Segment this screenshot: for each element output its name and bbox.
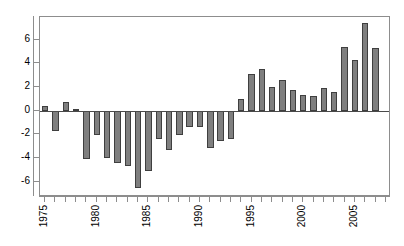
y-axis-tick-label: -2 <box>21 128 30 138</box>
x-axis-tick <box>106 197 107 202</box>
y-axis-tick-label: 0 <box>24 105 30 115</box>
x-axis-tick-label: 1985 <box>142 205 152 227</box>
x-axis-tick <box>116 197 117 202</box>
bar <box>310 96 316 111</box>
bar <box>94 111 100 136</box>
bar <box>217 111 223 142</box>
x-axis-tick <box>137 197 138 202</box>
x-axis-tick <box>354 197 355 202</box>
x-axis-tick-label: 1980 <box>91 205 101 227</box>
x-axis-tick <box>375 197 376 202</box>
x-axis-tick <box>261 197 262 202</box>
bar <box>135 111 141 188</box>
x-axis-tick-label: 2000 <box>297 205 307 227</box>
y-axis-tick-label: 6 <box>24 34 30 44</box>
plot-area <box>39 16 390 196</box>
x-axis-tick <box>168 197 169 202</box>
x-axis-tick <box>251 197 252 202</box>
x-axis: 1975198019851990199520002005 <box>39 196 390 202</box>
x-axis-tick <box>189 197 190 202</box>
bar <box>362 23 368 111</box>
bar <box>259 69 265 111</box>
bar <box>228 111 234 139</box>
bar <box>104 111 110 158</box>
y-axis-tick-label: -4 <box>21 152 30 162</box>
x-axis-tick <box>44 197 45 202</box>
x-axis-tick <box>323 197 324 202</box>
x-axis-tick <box>85 197 86 202</box>
bar <box>321 88 327 111</box>
bar <box>279 80 285 110</box>
zero-baseline <box>40 111 389 112</box>
x-axis-tick <box>158 197 159 202</box>
bar <box>300 95 306 111</box>
x-axis-tick <box>364 197 365 202</box>
x-axis-tick <box>65 197 66 202</box>
bar <box>176 111 182 136</box>
x-axis-tick <box>75 197 76 202</box>
x-axis-tick <box>178 197 179 202</box>
x-axis-tick-label: 1995 <box>246 205 256 227</box>
x-axis-tick <box>96 197 97 202</box>
x-axis-tick-label: 2005 <box>349 205 359 227</box>
x-axis-tick <box>209 197 210 202</box>
bar <box>52 111 58 131</box>
y-axis-tick-label: 2 <box>24 81 30 91</box>
bar <box>352 60 358 110</box>
bar <box>372 48 378 110</box>
x-axis-tick-label: 1990 <box>194 205 204 227</box>
bar <box>63 102 69 111</box>
bar <box>248 74 254 111</box>
bar <box>145 111 151 171</box>
bar <box>114 111 120 163</box>
x-axis-tick <box>271 197 272 202</box>
bar <box>186 111 192 128</box>
bar <box>207 111 213 149</box>
x-axis-tick <box>313 197 314 202</box>
x-axis-tick <box>282 197 283 202</box>
x-axis-tick <box>240 197 241 202</box>
y-axis-tick-label: 4 <box>24 57 30 67</box>
x-axis-tick <box>199 197 200 202</box>
bar <box>331 92 337 110</box>
bars-layer <box>40 17 389 195</box>
x-axis-tick <box>385 197 386 202</box>
x-axis-tick <box>302 197 303 202</box>
x-axis-tick <box>147 197 148 202</box>
x-axis-tick-label: 1975 <box>39 205 49 227</box>
bar-chart: 6420-2-4-6 1975198019851990199520002005 <box>0 0 404 246</box>
bar <box>156 111 162 139</box>
bar <box>341 47 347 110</box>
bar <box>83 111 89 160</box>
x-axis-tick <box>292 197 293 202</box>
bar <box>125 111 131 167</box>
bar <box>197 111 203 127</box>
x-axis-tick <box>230 197 231 202</box>
x-axis-tick <box>333 197 334 202</box>
bar <box>238 99 244 110</box>
bar <box>269 87 275 110</box>
bar <box>166 111 172 150</box>
y-axis-tick-label: -6 <box>21 176 30 186</box>
x-axis-tick <box>54 197 55 202</box>
x-axis-tick <box>344 197 345 202</box>
bar <box>290 90 296 111</box>
x-axis-tick <box>220 197 221 202</box>
x-axis-tick <box>127 197 128 202</box>
